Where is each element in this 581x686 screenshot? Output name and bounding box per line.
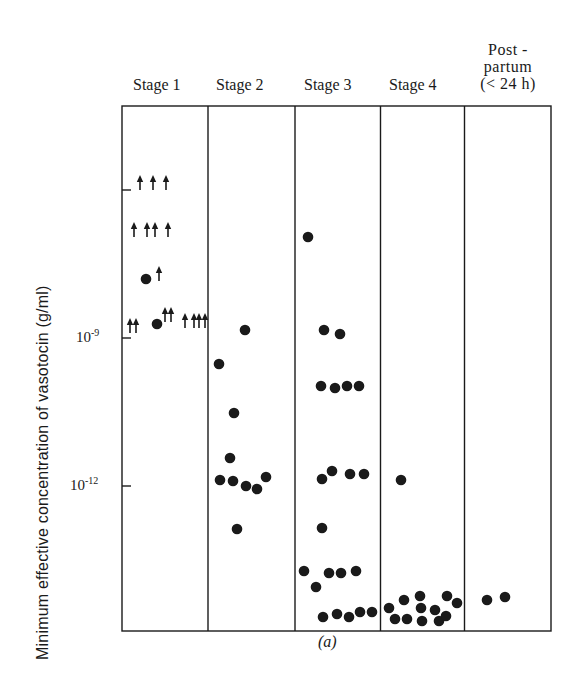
data-point bbox=[442, 591, 453, 602]
data-point bbox=[317, 474, 328, 485]
data-point bbox=[342, 381, 353, 392]
data-point bbox=[327, 466, 338, 477]
data-point bbox=[354, 381, 365, 392]
arrow-up-icon bbox=[127, 318, 133, 333]
data-point bbox=[317, 523, 328, 534]
data-point bbox=[229, 408, 240, 419]
data-point bbox=[214, 359, 225, 370]
arrow-up-icon bbox=[150, 175, 156, 190]
data-point bbox=[390, 614, 401, 625]
data-point bbox=[330, 383, 341, 394]
arrow-up-icon bbox=[168, 307, 174, 322]
data-point bbox=[141, 274, 152, 285]
series-stage-1 bbox=[127, 175, 208, 333]
data-point bbox=[416, 603, 427, 614]
series-stage-2 bbox=[214, 325, 272, 535]
data-point bbox=[215, 475, 226, 486]
arrow-up-icon bbox=[152, 222, 158, 237]
data-point bbox=[441, 611, 452, 622]
data-point bbox=[252, 484, 263, 495]
arrow-up-icon bbox=[133, 318, 139, 333]
data-point bbox=[299, 566, 310, 577]
data-point bbox=[452, 598, 463, 609]
arrow-up-icon bbox=[162, 307, 168, 322]
arrow-up-icon bbox=[165, 222, 171, 237]
data-point bbox=[332, 609, 343, 620]
data-point bbox=[228, 476, 239, 487]
data-point bbox=[344, 612, 355, 623]
data-point bbox=[241, 481, 252, 492]
arrow-up-icon bbox=[137, 175, 143, 190]
series-stage-3 bbox=[299, 232, 378, 623]
data-point bbox=[318, 612, 329, 623]
figure: Stage 1 Stage 2 Stage 3 Stage 4 Post - p… bbox=[0, 0, 581, 686]
arrow-up-icon bbox=[196, 313, 202, 328]
arrow-up-icon bbox=[202, 313, 208, 328]
data-point bbox=[152, 319, 163, 330]
data-point bbox=[359, 469, 370, 480]
arrow-up-icon bbox=[163, 175, 169, 190]
data-point bbox=[319, 325, 330, 336]
series-stage-4 bbox=[384, 475, 463, 627]
data-point bbox=[402, 614, 413, 625]
data-point bbox=[351, 566, 362, 577]
data-point bbox=[316, 381, 327, 392]
data-point bbox=[335, 329, 346, 340]
data-point bbox=[355, 607, 366, 618]
data-point bbox=[232, 524, 243, 535]
data-point bbox=[399, 595, 410, 606]
arrow-up-icon bbox=[191, 313, 197, 328]
data-point bbox=[482, 595, 493, 606]
data-point bbox=[500, 592, 511, 603]
series-post-partum-24-h bbox=[482, 592, 511, 606]
arrow-up-icon bbox=[182, 313, 188, 328]
plot-frame bbox=[122, 106, 551, 631]
data-point bbox=[396, 475, 407, 486]
data-point bbox=[384, 603, 395, 614]
data-point bbox=[336, 568, 347, 579]
data-point bbox=[261, 472, 272, 483]
plot-area bbox=[0, 0, 581, 686]
data-point bbox=[367, 607, 378, 618]
data-point bbox=[324, 568, 335, 579]
data-point bbox=[311, 582, 322, 593]
data-point bbox=[415, 591, 426, 602]
arrow-up-icon bbox=[156, 266, 162, 281]
data-point bbox=[303, 232, 314, 243]
data-point bbox=[417, 616, 428, 627]
data-point bbox=[430, 605, 441, 616]
figure-caption: (a) bbox=[318, 633, 337, 651]
arrow-up-icon bbox=[144, 222, 150, 237]
data-point bbox=[225, 453, 236, 464]
data-point bbox=[345, 469, 356, 480]
arrow-up-icon bbox=[131, 222, 137, 237]
data-point bbox=[240, 325, 251, 336]
data-markers bbox=[127, 175, 511, 626]
